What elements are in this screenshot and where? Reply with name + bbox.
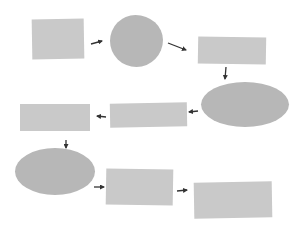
node-3-rectangle bbox=[198, 36, 266, 64]
node-8-rectangle bbox=[106, 168, 174, 205]
arrow-n8-to-n9 bbox=[177, 190, 187, 191]
node-1-rectangle bbox=[32, 19, 85, 60]
node-4-ellipse bbox=[201, 82, 289, 127]
node-6-rectangle bbox=[20, 104, 90, 131]
arrow-n2-to-n3 bbox=[168, 43, 186, 50]
flowchart-canvas bbox=[0, 0, 305, 227]
node-9-rectangle bbox=[194, 181, 273, 218]
node-5-rectangle bbox=[110, 102, 187, 127]
arrow-n1-to-n2 bbox=[91, 41, 102, 44]
arrow-n5-to-n6 bbox=[97, 116, 106, 117]
node-7-ellipse bbox=[15, 148, 95, 195]
node-2-circle bbox=[110, 15, 163, 67]
arrow-n3-to-n4 bbox=[225, 67, 226, 79]
arrow-n4-to-n5 bbox=[189, 111, 198, 112]
